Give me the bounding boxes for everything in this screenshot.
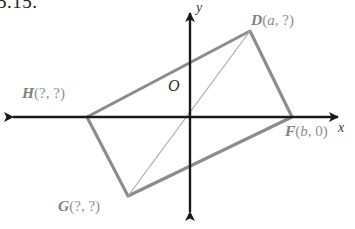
- vertex-name-d: D: [251, 11, 262, 28]
- vertex-name-h: H: [22, 84, 34, 101]
- vertex-paren-close-d: ): [289, 12, 294, 28]
- vertex-label-d: D(a, ?): [251, 12, 294, 28]
- x-axis-label: x: [338, 120, 344, 136]
- vertex-coord-x-d: a: [267, 12, 275, 28]
- geometry-figure-canvas: 5.15. O x y D(a, ?): [0, 0, 355, 229]
- vertex-coord-y-f: 0: [315, 123, 323, 139]
- vertex-coord-y-d: ?: [282, 12, 289, 28]
- vertex-paren-close-g: ): [95, 198, 100, 214]
- vertex-label-f: F(b, 0): [285, 123, 328, 139]
- vertex-coord-y-h: ?: [53, 85, 60, 101]
- vertex-coord-x-h: ?: [39, 85, 46, 101]
- vertex-label-h: H(?, ?): [22, 85, 65, 101]
- vertex-coord-x-g: ?: [74, 198, 81, 214]
- vertex-paren-close-f: ): [323, 123, 328, 139]
- vertex-name-f: F: [285, 122, 295, 139]
- origin-label: O: [168, 77, 180, 95]
- y-axis-label: y: [196, 0, 202, 16]
- coordinate-plane-svg: [0, 0, 355, 229]
- vertex-label-g: G(?, ?): [58, 198, 100, 214]
- vertex-coord-x-f: b: [300, 123, 308, 139]
- vertex-name-g: G: [58, 197, 69, 214]
- vertex-paren-close-h: ): [60, 85, 65, 101]
